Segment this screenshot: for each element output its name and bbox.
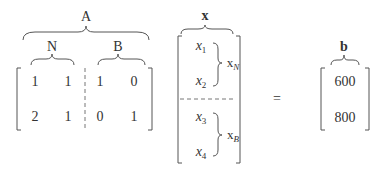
a-cell: 1	[65, 110, 72, 124]
a-cell: 2	[32, 110, 39, 124]
x-entry: x1	[196, 39, 207, 55]
label-x: x	[202, 9, 209, 23]
bracket-b-left	[321, 68, 325, 130]
x-entry: x2	[196, 74, 207, 90]
a-cell: 1	[97, 75, 104, 89]
brace-b	[98, 54, 145, 65]
label-n: N	[47, 40, 57, 54]
brace-xn	[213, 43, 222, 86]
x-entry: x3	[196, 110, 207, 126]
equation-graphics	[0, 0, 384, 172]
bracket-a-left	[17, 68, 21, 130]
label-b-vector: b	[340, 40, 348, 54]
b-value: 800	[335, 111, 356, 125]
label-b: B	[113, 40, 122, 54]
bracket-a-right	[148, 68, 152, 130]
label-a: A	[81, 10, 91, 24]
brace-n	[31, 54, 74, 65]
a-cell: 1	[65, 75, 72, 89]
a-cell: 1	[131, 110, 138, 124]
x-b-label: xB	[227, 128, 239, 144]
b-value: 600	[335, 75, 356, 89]
brace-a	[23, 26, 149, 40]
brace-xb	[213, 113, 222, 156]
brace-x	[181, 25, 233, 34]
a-cell: 1	[32, 75, 39, 89]
equals-sign: =	[273, 92, 281, 106]
x-n-label: xN	[227, 56, 240, 72]
a-cell: 0	[97, 110, 104, 124]
brace-b-vec	[331, 55, 359, 65]
x-entry: x4	[196, 145, 207, 161]
a-cell: 0	[131, 75, 138, 89]
bracket-b-right	[365, 68, 369, 130]
